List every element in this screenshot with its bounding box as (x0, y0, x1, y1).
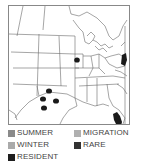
occurrence-dots (40, 53, 127, 125)
rare-swatch-icon (74, 142, 81, 149)
winter-swatch-icon (8, 142, 15, 149)
legend-item-migration: MIGRATION (74, 128, 129, 138)
legend-item-winter: WINTER (8, 140, 49, 150)
range-map (8, 5, 130, 125)
legend-item-rare: RARE (74, 140, 106, 150)
legend-item-resident: RESIDENT (8, 152, 58, 162)
legend-item-summer: SUMMER (8, 128, 53, 138)
map-legend: SUMMER MIGRATION WINTER RARE RESIDENT (8, 128, 144, 164)
migration-swatch-icon (74, 130, 81, 137)
legend-label: MIGRATION (83, 128, 129, 138)
legend-label: RARE (83, 140, 106, 150)
legend-label: WINTER (17, 140, 49, 150)
us-states-outline (9, 6, 130, 125)
legend-label: SUMMER (17, 128, 53, 138)
resident-swatch-icon (8, 154, 15, 161)
summer-swatch-icon (8, 130, 15, 137)
legend-label: RESIDENT (17, 152, 58, 162)
